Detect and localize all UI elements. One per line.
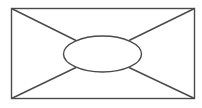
envelope-diagram [0, 0, 202, 108]
center-ellipse [64, 36, 142, 72]
